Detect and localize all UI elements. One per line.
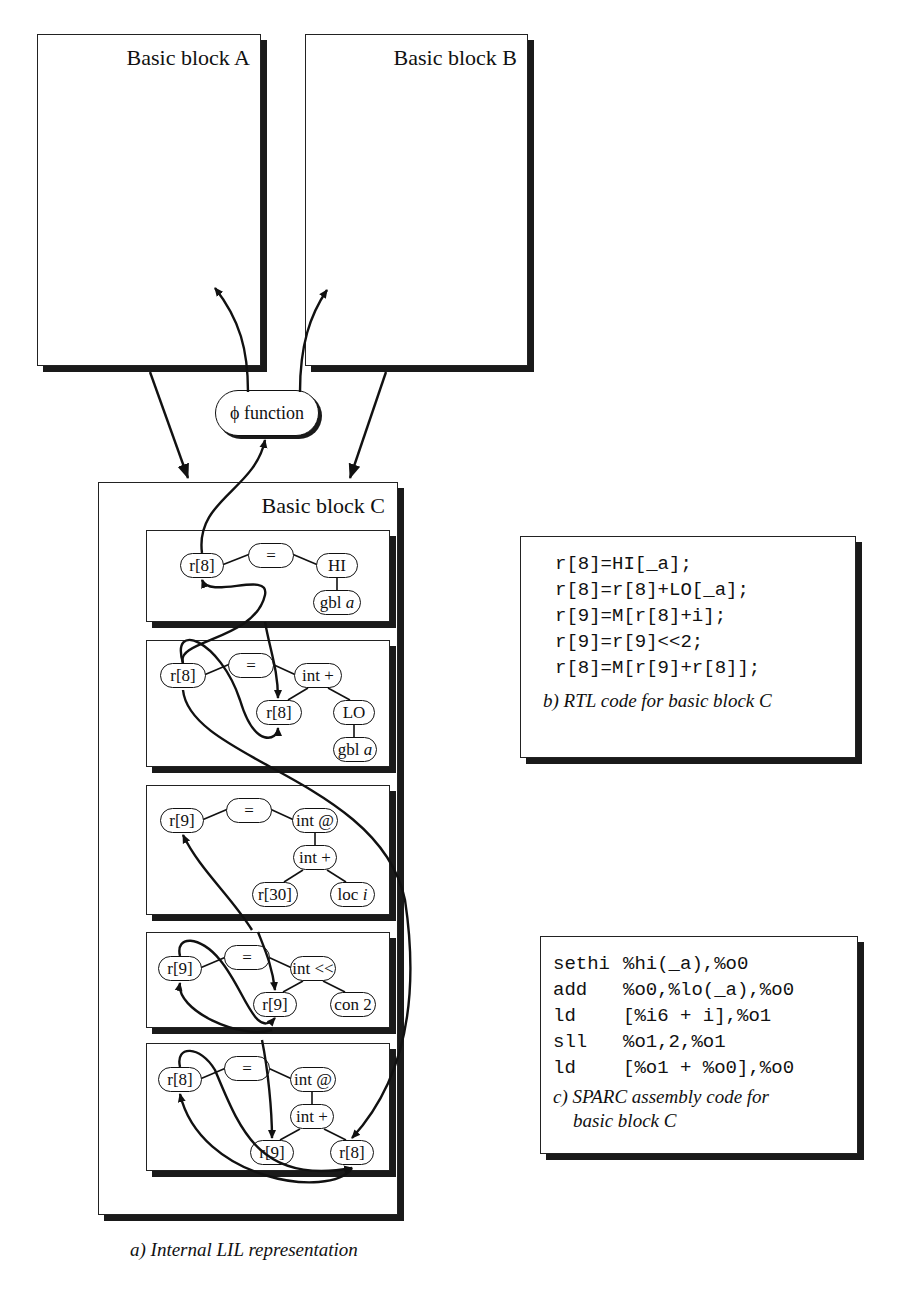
node-int-shl: int << bbox=[290, 956, 336, 981]
node-int-deref: int @ bbox=[290, 1067, 336, 1092]
node-assign: = bbox=[228, 653, 274, 678]
sparc-op: ld bbox=[553, 1003, 623, 1029]
node-int-plus: int + bbox=[293, 845, 337, 870]
sparc-line: add%o0,%lo(_a),%o0 bbox=[553, 977, 857, 1003]
rtl-caption: b) RTL code for basic block C bbox=[543, 689, 855, 713]
node-hi: HI bbox=[316, 553, 358, 578]
rtl-line: r[9]=M[r[8]+i]; bbox=[555, 603, 855, 629]
rtl-line: r[8]=HI[_a]; bbox=[555, 551, 855, 577]
node-r8-operand: r[8] bbox=[256, 700, 302, 725]
node-r8-dest: r[8] bbox=[160, 663, 206, 688]
sparc-code-box: sethi%hi(_a),%o0 add%o0,%lo(_a),%o0 ld[%… bbox=[540, 936, 858, 1154]
figure-caption: a) Internal LIL representation bbox=[130, 1238, 358, 1262]
sparc-args: [%i6 + i],%o1 bbox=[623, 1005, 771, 1027]
sparc-op: add bbox=[553, 977, 623, 1003]
node-assign: = bbox=[248, 543, 294, 568]
basic-block-b: Basic block B bbox=[305, 34, 528, 366]
sparc-args: %hi(_a),%o0 bbox=[623, 953, 748, 975]
rtl-line: r[8]=r[8]+LO[_a]; bbox=[555, 577, 855, 603]
basic-block-a: Basic block A bbox=[37, 34, 261, 366]
node-r9-dest: r[9] bbox=[160, 808, 204, 833]
sparc-args: %o0,%lo(_a),%o0 bbox=[623, 979, 794, 1001]
node-r9-operand: r[9] bbox=[253, 992, 297, 1017]
node-int-plus: int + bbox=[290, 1104, 334, 1129]
sparc-args: [%o1 + %o0],%o0 bbox=[623, 1057, 794, 1079]
sparc-line: ld[%o1 + %o0],%o0 bbox=[553, 1055, 857, 1081]
sparc-op: sll bbox=[553, 1029, 623, 1055]
node-r8-dest: r[8] bbox=[158, 1067, 202, 1092]
node-r8-operand: r[8] bbox=[330, 1140, 374, 1165]
sparc-line: sethi%hi(_a),%o0 bbox=[553, 951, 857, 977]
sparc-line: sll%o1,2,%o1 bbox=[553, 1029, 857, 1055]
basic-block-b-title: Basic block B bbox=[394, 45, 517, 71]
node-r30: r[30] bbox=[252, 882, 298, 907]
sparc-op: sethi bbox=[553, 951, 623, 977]
gbl-var: a bbox=[364, 740, 373, 760]
node-assign: = bbox=[224, 945, 270, 970]
rtl-code-box: r[8]=HI[_a]; r[8]=r[8]+LO[_a]; r[9]=M[r[… bbox=[520, 536, 856, 758]
sparc-line: ld[%i6 + i],%o1 bbox=[553, 1003, 857, 1029]
gbl-label: gbl bbox=[320, 593, 342, 613]
rtl-line: r[8]=M[r[9]+r[8]]; bbox=[555, 655, 855, 681]
loc-var: i bbox=[363, 885, 368, 905]
node-lo: LO bbox=[333, 700, 375, 725]
loc-label: loc bbox=[338, 885, 359, 905]
rtl-line: r[9]=r[9]<<2; bbox=[555, 629, 855, 655]
node-int-plus: int + bbox=[294, 663, 342, 688]
node-r9-operand: r[9] bbox=[250, 1140, 294, 1165]
node-gbl-a: gbl a bbox=[313, 590, 361, 615]
node-assign: = bbox=[226, 798, 272, 823]
gbl-var: a bbox=[346, 593, 355, 613]
node-assign: = bbox=[224, 1056, 270, 1081]
sparc-args: %o1,2,%o1 bbox=[623, 1031, 726, 1053]
phi-function-node: ϕ function bbox=[215, 390, 319, 436]
phi-label: function bbox=[244, 403, 304, 424]
node-int-deref: int @ bbox=[292, 808, 338, 833]
basic-block-c-title: Basic block C bbox=[262, 493, 385, 519]
phi-symbol: ϕ bbox=[230, 403, 239, 424]
node-loc-i: loc i bbox=[330, 882, 375, 907]
sparc-caption-line1: c) SPARC assembly code for bbox=[553, 1085, 857, 1109]
node-r9-dest: r[9] bbox=[158, 956, 202, 981]
node-gbl-a: gbl a bbox=[333, 737, 377, 762]
node-r8-dest: r[8] bbox=[180, 553, 224, 578]
gbl-label: gbl bbox=[338, 740, 360, 760]
sparc-caption-line2: basic block C bbox=[573, 1109, 857, 1133]
node-con-2: con 2 bbox=[330, 992, 376, 1017]
basic-block-a-title: Basic block A bbox=[127, 45, 250, 71]
sparc-op: ld bbox=[553, 1055, 623, 1081]
